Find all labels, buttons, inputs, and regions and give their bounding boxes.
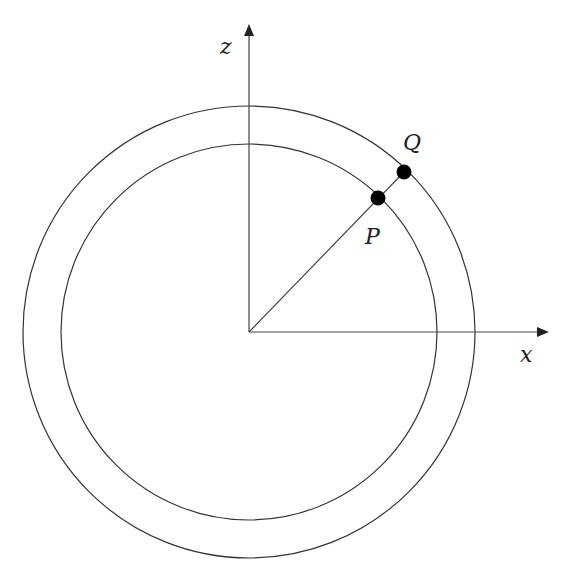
point-q-label: Q	[403, 130, 421, 155]
diagram-canvas: z x P Q	[0, 0, 565, 584]
z-axis-label: z	[219, 34, 232, 59]
x-axis-label: x	[520, 342, 533, 367]
point-p	[371, 191, 386, 206]
point-q	[397, 165, 412, 180]
point-p-label: P	[364, 224, 381, 249]
